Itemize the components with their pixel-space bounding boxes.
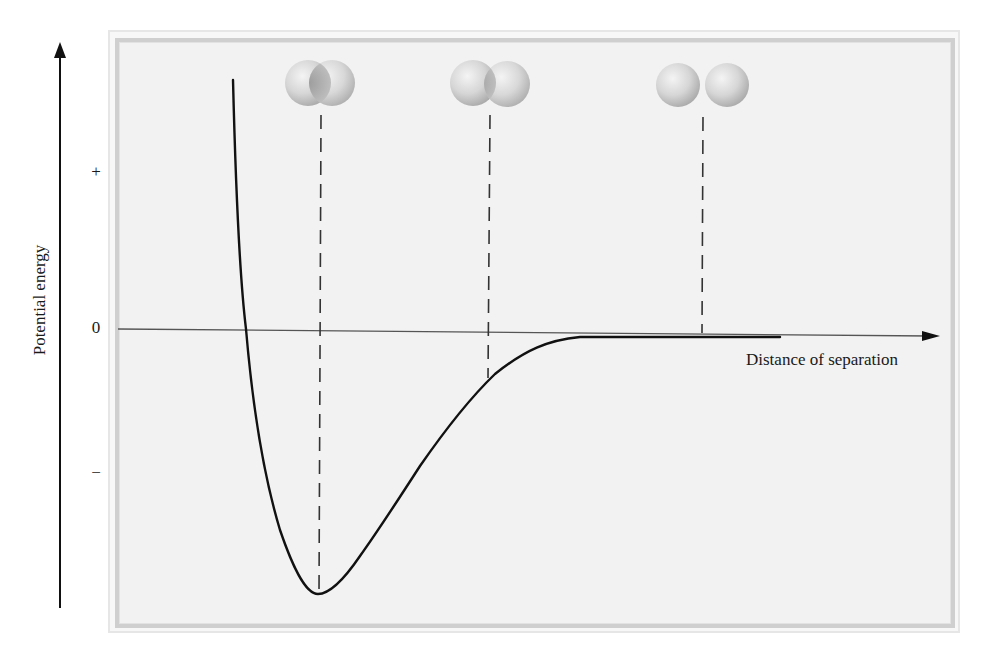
reference-line-3	[702, 117, 703, 333]
x-axis	[118, 329, 940, 341]
y-axis-arrow-icon	[54, 42, 66, 58]
potential-energy-figure: Potential energy + 0 − Distance of separ…	[0, 0, 988, 665]
x-axis-label: Distance of separation	[746, 350, 898, 370]
reference-lines	[319, 115, 703, 594]
reference-line-2	[488, 115, 490, 378]
atom-pair-partial-overlap-icon	[450, 60, 530, 107]
y-tick-zero: 0	[92, 318, 101, 338]
x-axis-arrow-icon	[922, 331, 940, 341]
potential-energy-curve	[233, 80, 780, 594]
reference-line-1	[319, 115, 321, 594]
y-axis	[54, 42, 66, 608]
chart-svg	[0, 0, 988, 665]
y-axis-label: Potential energy	[30, 245, 50, 356]
atom-pair-heavy-overlap-icon	[285, 60, 355, 106]
atom-pair-separated-icon	[656, 63, 749, 107]
y-tick-minus: −	[91, 463, 101, 483]
y-tick-plus: +	[91, 162, 101, 182]
